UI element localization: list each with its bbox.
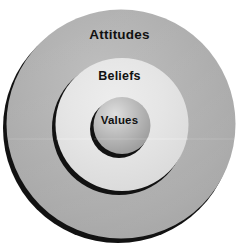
label-values: Values xyxy=(0,114,239,126)
diagram-container: Attitudes Beliefs Values xyxy=(0,0,239,252)
label-attitudes: Attitudes xyxy=(0,27,239,42)
label-beliefs: Beliefs xyxy=(0,69,239,83)
